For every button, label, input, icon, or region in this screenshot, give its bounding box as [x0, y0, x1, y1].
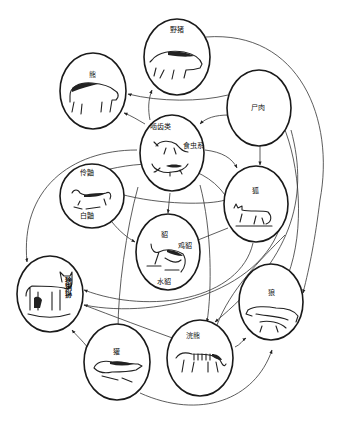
label-fox: 狐 — [252, 188, 259, 195]
label-marten: 貂 — [161, 232, 168, 239]
label-lynx: 猞猁狲 — [64, 277, 71, 298]
node-fox — [224, 166, 288, 242]
node-lynx — [17, 256, 83, 332]
label-boar: 野猪 — [170, 27, 184, 34]
label-badger: 獾 — [113, 349, 120, 356]
food-web-diagram — [0, 0, 337, 423]
label-least-weasel: 伶鼬 — [80, 170, 94, 177]
label-insectivores: 食虫系 — [183, 143, 204, 150]
label-raccoon: 浣熊 — [186, 333, 200, 340]
label-stoat: 白鼬 — [80, 213, 94, 220]
node-bear — [60, 53, 126, 129]
node-raccoon — [167, 320, 233, 396]
node-badger — [84, 324, 150, 400]
label-rodents: 啮齿类 — [150, 124, 171, 131]
label-polecat: 鸡貂 — [178, 243, 192, 250]
label-mink: 水貂 — [157, 279, 171, 286]
node-wolf — [239, 264, 303, 340]
label-wolf: 狼 — [268, 290, 275, 297]
label-carrion: 尸肉 — [251, 105, 265, 112]
label-bear: 熊 — [89, 72, 96, 79]
